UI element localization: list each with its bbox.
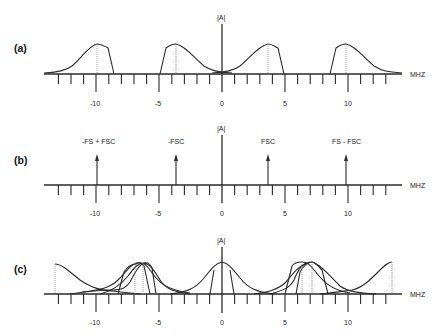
unit-label-b: MHZ	[410, 182, 426, 189]
tick-label-0-b: 0	[220, 210, 224, 217]
tick-label-neg10-c: -10	[90, 319, 100, 326]
impulse-fs-minus-fsc: FS - FSC	[332, 138, 361, 185]
svg-text:-FS + FSC: -FS + FSC	[82, 138, 115, 145]
tick-label-5-c: 5	[283, 319, 287, 326]
tick-label-10-a: 10	[344, 100, 352, 107]
arrow-up-icon	[266, 154, 270, 161]
tick-label-neg5-c: -5	[155, 319, 161, 326]
tick-label-neg10-b: -10	[90, 210, 100, 217]
spectrum-diagram: (a) |A| MHZ	[0, 0, 438, 336]
panel-b: (b) |A| MHZ	[14, 125, 426, 217]
panel-a: (a) |A| MHZ	[14, 14, 426, 107]
unit-label-a: MHZ	[410, 71, 426, 78]
amplitude-label-a: |A|	[217, 14, 225, 22]
amplitude-label-c: |A|	[217, 237, 225, 245]
panel-a-label: (a)	[14, 42, 27, 54]
tick-label-10-c: 10	[344, 319, 352, 326]
impulse-fsc: FSC	[261, 138, 275, 185]
tick-label-0-a: 0	[220, 100, 224, 107]
tick-label-0-c: 0	[220, 319, 224, 326]
tick-label-neg5-a: -5	[155, 100, 161, 107]
arrow-up-icon	[95, 154, 99, 161]
tick-label-neg5-b: -5	[155, 210, 161, 217]
tick-label-5-b: 5	[283, 210, 287, 217]
unit-label-c: MHZ	[410, 291, 426, 298]
panel-b-label: (b)	[14, 154, 27, 166]
tick-label-neg10-a: -10	[90, 100, 100, 107]
arrow-up-icon	[174, 154, 178, 161]
svg-text:FSC: FSC	[261, 138, 275, 145]
svg-text:-FSC: -FSC	[168, 138, 184, 145]
impulse-neg-fsc: -FSC	[168, 138, 184, 185]
arrow-up-icon	[344, 154, 348, 161]
impulse-neg-fs-plus-fsc: -FS + FSC	[82, 138, 115, 185]
spectrum-lobes-a	[44, 44, 402, 74]
panel-c: (c) |A| MHZ	[14, 237, 426, 326]
panel-c-label: (c)	[14, 263, 27, 275]
amplitude-label-b: |A|	[217, 125, 225, 133]
svg-text:FS - FSC: FS - FSC	[332, 138, 361, 145]
tick-label-5-a: 5	[283, 100, 287, 107]
spectrum-lobes-c	[55, 262, 392, 294]
tick-label-10-b: 10	[344, 210, 352, 217]
